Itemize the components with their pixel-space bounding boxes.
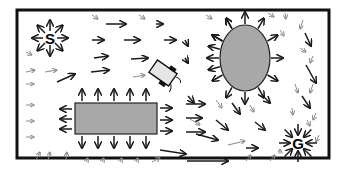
workspace-border [17,10,329,158]
ellipse-obstacle [220,25,270,91]
rect-obstacle [75,103,157,134]
field-arrow-icon [131,58,148,59]
start-label: S [45,30,55,47]
potential-field-diagram: S G [0,0,346,177]
goal-label: G [292,135,304,152]
